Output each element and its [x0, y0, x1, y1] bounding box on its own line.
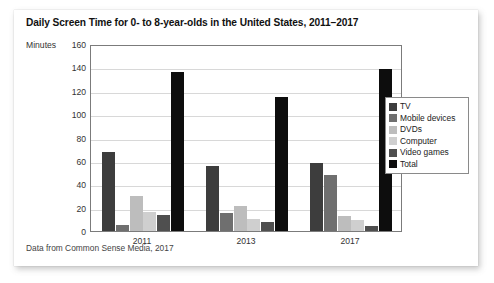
legend-item: Total — [389, 159, 464, 171]
bar-mobile-devices-2011 — [116, 225, 129, 231]
gridline — [91, 93, 401, 94]
bar-mobile-devices-2013 — [220, 213, 233, 231]
gridline — [91, 140, 401, 141]
y-tick-label: 0 — [62, 227, 86, 237]
bar-computer-2011 — [143, 212, 156, 231]
x-tick-label: 2017 — [340, 236, 359, 246]
bar-video-games-2011 — [157, 215, 170, 231]
legend-label: Total — [400, 159, 418, 171]
x-tick-label: 2011 — [133, 236, 151, 246]
plot-area — [90, 45, 402, 232]
gridline — [91, 186, 401, 187]
y-tick-label: 80 — [62, 134, 86, 144]
legend-swatch-icon — [389, 160, 397, 168]
y-tick-label: 100 — [62, 110, 86, 120]
page-title: Daily Screen Time for 0- to 8-year-olds … — [26, 17, 358, 28]
bar-tv-2011 — [102, 152, 115, 231]
bar-dvds-2013 — [234, 206, 247, 231]
chart-card: Daily Screen Time for 0- to 8-year-olds … — [14, 10, 478, 266]
y-axis-ticks: 020406080100120140160 — [58, 45, 86, 232]
screenshot-root: Daily Screen Time for 0- to 8-year-olds … — [0, 0, 494, 283]
bar-dvds-2017 — [338, 216, 351, 231]
bar-tv-2013 — [206, 166, 219, 231]
bar-video-games-2013 — [261, 222, 274, 231]
legend-swatch-icon — [389, 149, 397, 157]
legend-label: Computer — [400, 136, 437, 148]
gridline — [91, 69, 401, 70]
x-tick-label: 2013 — [236, 236, 255, 246]
bar-total-2013 — [275, 97, 288, 231]
legend-label: Mobile devices — [400, 113, 455, 125]
bar-mobile-devices-2017 — [324, 175, 337, 231]
legend-item: Video games — [389, 147, 464, 159]
legend-item: TV — [389, 101, 464, 113]
y-tick-label: 60 — [62, 157, 86, 167]
bar-computer-2017 — [351, 220, 364, 231]
legend-swatch-icon — [389, 137, 397, 145]
legend-swatch-icon — [389, 103, 397, 111]
bar-computer-2013 — [247, 219, 260, 231]
bar-tv-2017 — [310, 163, 323, 231]
y-tick-label: 140 — [62, 63, 86, 73]
legend-swatch-icon — [389, 126, 397, 134]
legend-label: Video games — [400, 147, 449, 159]
y-tick-label: 160 — [62, 40, 86, 50]
gridline — [91, 116, 401, 117]
legend-item: DVDs — [389, 124, 464, 136]
chart-legend: TVMobile devicesDVDsComputerVideo gamesT… — [385, 97, 469, 174]
legend-label: TV — [400, 101, 411, 113]
bar-video-games-2017 — [365, 226, 378, 231]
legend-item: Computer — [389, 136, 464, 148]
bar-dvds-2011 — [130, 196, 143, 231]
legend-swatch-icon — [389, 114, 397, 122]
bar-total-2011 — [171, 72, 184, 231]
legend-item: Mobile devices — [389, 113, 464, 125]
gridline — [91, 163, 401, 164]
legend-label: DVDs — [400, 124, 422, 136]
y-axis-label: Minutes — [26, 40, 56, 50]
y-tick-label: 40 — [62, 180, 86, 190]
y-tick-label: 20 — [62, 204, 86, 214]
y-tick-label: 120 — [62, 87, 86, 97]
source-caption: Data from Common Sense Media, 2017 — [26, 243, 174, 253]
